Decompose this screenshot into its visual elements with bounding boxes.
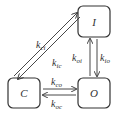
rate-label-oc: koc — [51, 98, 63, 111]
state-o-label: O — [90, 87, 98, 99]
rate-label-oi: koi — [72, 52, 82, 65]
rate-label-ci: kci — [36, 39, 46, 52]
state-o: O — [78, 78, 110, 108]
state-c: C — [8, 78, 40, 108]
arrow-i-to-c — [18, 17, 80, 79]
rate-label-co: kco — [51, 76, 63, 89]
rate-label-io: kio — [100, 52, 110, 65]
rate-label-ic: kic — [52, 57, 62, 70]
state-diagram: I C O kci kic kco koc koi kio — [0, 0, 120, 116]
state-i: I — [78, 6, 110, 37]
state-c-label: C — [20, 87, 28, 99]
